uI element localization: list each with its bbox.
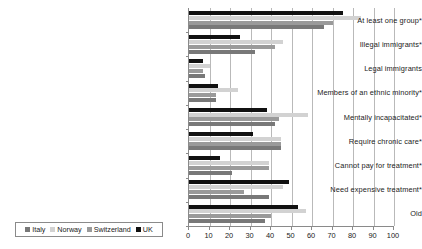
bar-uk xyxy=(189,205,298,209)
category-label: Old xyxy=(238,209,422,218)
bar-switzerland xyxy=(189,93,216,97)
bar-italy xyxy=(189,25,324,29)
x-axis-tick xyxy=(229,227,230,230)
bar-uk xyxy=(189,108,267,112)
bar-italy xyxy=(189,74,205,78)
x-axis-label: 100 xyxy=(381,231,405,240)
legend-item-norway: Norway xyxy=(50,226,81,234)
legend-item-italy: Italy xyxy=(25,226,45,234)
bar-switzerland xyxy=(189,190,244,194)
bar-switzerland xyxy=(189,69,203,73)
x-axis-tick xyxy=(250,227,251,230)
legend-swatch-icon xyxy=(136,227,141,232)
x-axis-tick xyxy=(373,227,374,230)
chart-legend: ItalyNorwaySwitzerlandUK xyxy=(15,222,163,237)
category-label: Require chronic care* xyxy=(238,137,422,146)
bar-uk xyxy=(189,11,343,15)
legend-swatch-icon xyxy=(87,227,92,232)
x-axis-tick xyxy=(352,227,353,230)
bar-uk xyxy=(189,156,220,160)
bar-italy xyxy=(189,98,216,102)
legend-item-uk: UK xyxy=(136,226,153,234)
legend-label: Italy xyxy=(32,226,45,234)
bar-uk xyxy=(189,35,240,39)
x-axis-tick xyxy=(311,227,312,230)
category-label: Cannot pay for treatment* xyxy=(238,161,422,170)
category-label: At least one group* xyxy=(238,16,422,25)
x-axis: 0102030405060708090100 xyxy=(188,227,394,243)
bar-norway xyxy=(189,64,210,68)
legend-label: UK xyxy=(143,226,153,234)
bar-italy xyxy=(189,171,232,175)
category-label: Members of an ethnic minority* xyxy=(238,88,422,97)
bar-chart: At least one group*Illegal immigrants*Le… xyxy=(0,0,422,249)
category-label: Illegal immigrants* xyxy=(238,40,422,49)
category-label: Mentally incapacitated* xyxy=(238,113,422,122)
x-axis-tick xyxy=(291,227,292,230)
bar-italy xyxy=(189,195,269,199)
bar-uk xyxy=(189,84,218,88)
x-axis-tick xyxy=(332,227,333,230)
bar-italy xyxy=(189,122,275,126)
category-label: Need expensive treatment* xyxy=(238,185,422,194)
bar-uk xyxy=(189,59,203,63)
bar-norway xyxy=(189,88,238,92)
x-axis-tick xyxy=(188,227,189,230)
bar-italy xyxy=(189,219,265,223)
x-axis-tick xyxy=(209,227,210,230)
legend-label: Switzerland xyxy=(94,226,131,234)
legend-item-switzerland: Switzerland xyxy=(87,226,131,234)
x-axis-tick xyxy=(393,227,394,230)
x-axis-tick xyxy=(270,227,271,230)
category-label: Legal immigrants xyxy=(238,64,422,73)
bar-uk xyxy=(189,132,253,136)
legend-swatch-icon xyxy=(50,227,55,232)
legend-swatch-icon xyxy=(25,227,30,232)
bar-italy xyxy=(189,50,255,54)
bar-italy xyxy=(189,146,281,150)
bar-uk xyxy=(189,180,289,184)
legend-label: Norway xyxy=(57,226,81,234)
